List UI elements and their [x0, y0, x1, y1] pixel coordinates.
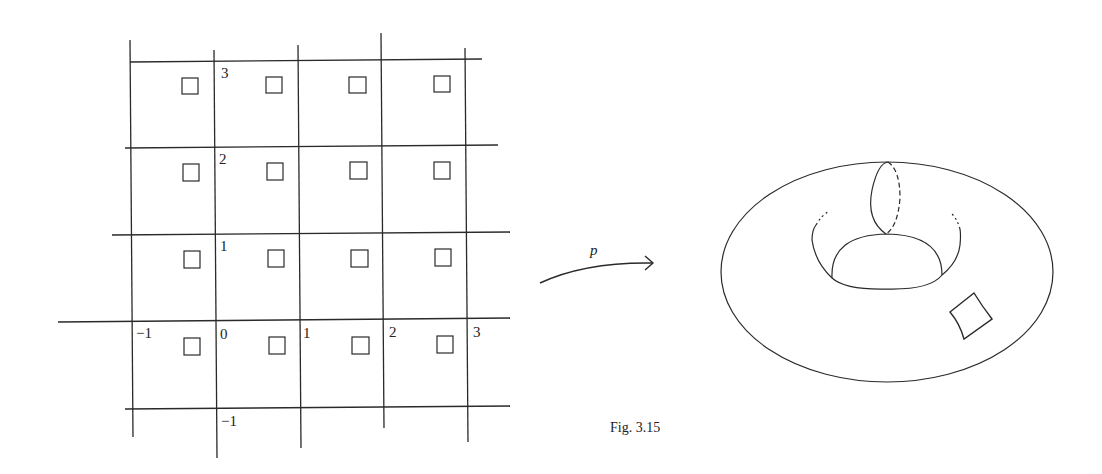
cell-square [351, 250, 368, 267]
torus-inner-wall-left [812, 225, 832, 278]
meridian-front [871, 162, 888, 234]
torus-inner-wall-right-hidden [950, 212, 960, 229]
arrow-curve [540, 263, 652, 283]
cell-square [434, 162, 450, 179]
grid-line-x1 [298, 45, 301, 448]
cell-square [183, 164, 199, 181]
meridian-back [886, 162, 900, 234]
torus-inner-wall-left-hidden [816, 212, 828, 225]
lattice-squares [182, 76, 453, 355]
grid-line-x2 [381, 33, 384, 428]
label-origin: 0 [220, 327, 228, 342]
grid-line-y2 [125, 145, 498, 148]
cell-square [350, 162, 367, 179]
label-y1: 1 [220, 239, 228, 254]
torus-inner-wall-right [942, 229, 961, 275]
covering-map-arrow [540, 256, 653, 283]
grid-line-x3 [465, 48, 468, 442]
cell-square [352, 337, 369, 354]
map-label-p: p [590, 242, 598, 259]
cell-square [184, 338, 200, 355]
grid-line-y3 [130, 59, 482, 62]
torus-square-patch [950, 293, 992, 339]
label-x3: 3 [473, 325, 481, 340]
cell-square [267, 163, 283, 180]
torus [721, 162, 1053, 382]
lattice-grid [58, 33, 510, 458]
label-x2: 2 [389, 325, 397, 340]
grid-line-yneg1 [125, 406, 510, 409]
torus-outer-boundary [721, 162, 1053, 382]
grid-line-x0 [214, 50, 217, 458]
cell-square [435, 249, 451, 266]
cell-square [349, 77, 366, 93]
grid-line-xneg1 [130, 40, 133, 437]
grid-line-y0 [58, 318, 510, 322]
figure-caption: Fig. 3.15 [610, 420, 660, 436]
grid-line-y1 [112, 232, 510, 235]
cell-square [182, 78, 198, 94]
label-x1: 1 [303, 326, 311, 341]
label-y-neg1: −1 [221, 414, 237, 429]
label-y2: 2 [219, 152, 227, 167]
cell-square [184, 251, 200, 268]
torus-hole-rim-back [832, 234, 942, 278]
cell-square [268, 250, 284, 267]
figure-canvas [0, 0, 1102, 474]
label-x-neg1: −1 [136, 326, 152, 341]
cell-square [266, 77, 282, 93]
label-y3: 3 [221, 66, 229, 81]
cell-square [434, 76, 450, 92]
torus-hole-rim-front [832, 275, 942, 289]
cell-square [437, 336, 453, 353]
cell-square [269, 337, 285, 354]
